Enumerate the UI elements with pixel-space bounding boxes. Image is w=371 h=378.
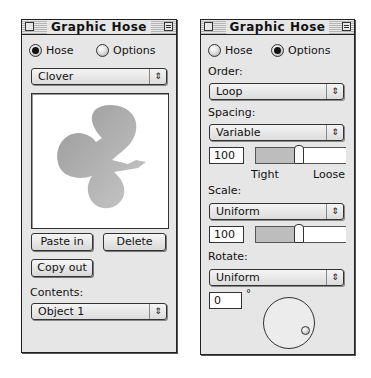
- popup-arrows-icon: ⇕: [149, 304, 166, 319]
- spacing-slider[interactable]: [255, 147, 346, 164]
- scale-select-value: Uniform: [216, 205, 260, 218]
- radio-unselected-icon[interactable]: [208, 44, 221, 57]
- rotate-label: Rotate:: [208, 250, 248, 263]
- paste-in-button[interactable]: Paste in: [31, 233, 93, 251]
- copy-out-button[interactable]: Copy out: [31, 259, 93, 277]
- radio-unselected-icon[interactable]: [96, 44, 109, 57]
- zoom-box-icon[interactable]: [342, 22, 351, 31]
- title-bar[interactable]: Graphic Hose: [201, 20, 354, 35]
- popup-arrows-icon: ⇕: [326, 84, 343, 99]
- contents-select-value: Object 1: [38, 305, 84, 318]
- radio-selected-icon[interactable]: [271, 44, 284, 57]
- rotate-select[interactable]: Uniform ⇕: [209, 269, 344, 286]
- zoom-box-icon[interactable]: [164, 22, 173, 31]
- popup-arrows-icon: ⇕: [149, 69, 166, 84]
- scale-select[interactable]: Uniform ⇕: [209, 203, 344, 220]
- spacing-select-value: Variable: [216, 126, 261, 139]
- delete-button[interactable]: Delete: [103, 233, 166, 251]
- rotate-dial-knob[interactable]: [301, 326, 310, 335]
- hose-preview: [31, 93, 169, 229]
- spacing-select[interactable]: Variable ⇕: [209, 124, 344, 141]
- clover-graphic: [32, 94, 168, 228]
- popup-arrows-icon: ⇕: [326, 270, 343, 285]
- radio-options[interactable]: Options: [271, 44, 330, 57]
- title-bar[interactable]: Graphic Hose: [22, 20, 176, 35]
- scale-slider[interactable]: [255, 226, 346, 243]
- popup-arrows-icon: ⇕: [326, 204, 343, 219]
- radio-label: Options: [113, 44, 155, 57]
- loose-label: Loose: [313, 168, 345, 181]
- tight-label: Tight: [251, 168, 279, 181]
- radio-hose[interactable]: Hose: [29, 44, 74, 57]
- spacing-slider-thumb[interactable]: [294, 145, 304, 164]
- popup-arrows-icon: ⇕: [326, 125, 343, 140]
- graphic-hose-panel-hose-tab: Graphic Hose Hose Options Clover ⇕ Paste…: [21, 19, 177, 353]
- hose-select-value: Clover: [38, 70, 73, 83]
- radio-options[interactable]: Options: [96, 44, 155, 57]
- radio-label: Hose: [46, 44, 74, 57]
- spacing-label: Spacing:: [208, 106, 255, 119]
- radio-hose[interactable]: Hose: [208, 44, 253, 57]
- rotate-angle-field[interactable]: 0: [209, 292, 242, 309]
- rotate-dial[interactable]: [263, 297, 315, 349]
- window-title: Graphic Hose: [226, 20, 330, 34]
- contents-label: Contents:: [30, 286, 83, 299]
- scale-amount-field[interactable]: 100: [209, 226, 244, 243]
- radio-label: Options: [288, 44, 330, 57]
- close-box-icon[interactable]: [25, 22, 34, 31]
- degree-symbol: °: [246, 288, 251, 299]
- radio-selected-icon[interactable]: [29, 44, 42, 57]
- scale-label: Scale:: [208, 184, 241, 197]
- scale-slider-thumb[interactable]: [294, 224, 304, 243]
- contents-select[interactable]: Object 1 ⇕: [31, 303, 167, 320]
- rotate-select-value: Uniform: [216, 271, 260, 284]
- window-title: Graphic Hose: [47, 20, 151, 34]
- hose-select[interactable]: Clover ⇕: [31, 68, 167, 85]
- order-select-value: Loop: [216, 85, 242, 98]
- order-label: Order:: [208, 65, 243, 78]
- scale-slider-fill: [256, 227, 299, 242]
- radio-label: Hose: [225, 44, 253, 57]
- graphic-hose-panel-options-tab: Graphic Hose Hose Options Order: Loop ⇕ …: [200, 19, 355, 355]
- close-box-icon[interactable]: [204, 22, 213, 31]
- spacing-amount-field[interactable]: 100: [209, 147, 244, 164]
- spacing-slider-fill: [256, 148, 299, 163]
- order-select[interactable]: Loop ⇕: [209, 83, 344, 100]
